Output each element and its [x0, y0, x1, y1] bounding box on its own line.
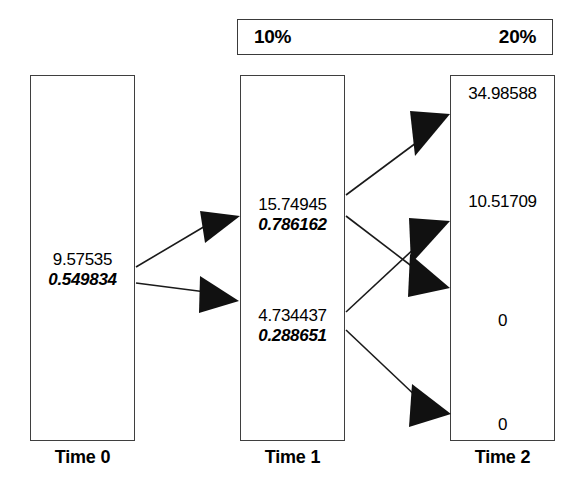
arrow-t1-0-to-t2-0 — [346, 111, 450, 195]
node-time2-3: 0 — [450, 415, 555, 435]
arrow-t1-1-to-t2-1 — [346, 218, 450, 312]
node-probability: 0.786162 — [240, 215, 345, 235]
period-caption-time-2: Time 2 — [430, 447, 575, 468]
period-caption-time-1: Time 1 — [220, 447, 365, 468]
arrow-t0-0-to-t1-1 — [136, 276, 239, 313]
legend-box: 10% 20% — [237, 19, 553, 55]
decision-tree-diagram: 10% 20% 9.57535 0.549834 Time 0 15.74945… — [0, 0, 584, 493]
period-caption-time-0: Time 0 — [10, 447, 155, 468]
node-value: 34.98588 — [450, 84, 555, 104]
period-box-time-1 — [240, 75, 345, 441]
arrow-t1-0-to-t2-2 — [346, 216, 450, 297]
node-time1-0: 15.74945 0.786162 — [240, 195, 345, 235]
period-box-time-2 — [450, 75, 555, 441]
legend-down-move-label: 20% — [499, 26, 536, 48]
arrow-t1-1-to-t2-3 — [346, 330, 451, 427]
arrow-t0-0-to-t1-0 — [136, 211, 240, 267]
node-value: 9.57535 — [30, 250, 135, 270]
node-time2-2: 0 — [450, 311, 555, 331]
node-time2-1: 10.51709 — [450, 192, 555, 212]
node-value: 10.51709 — [450, 192, 555, 212]
period-column-time-2: 34.98588 10.51709 0 0 Time 2 — [450, 75, 555, 441]
node-probability: 0.549834 — [30, 270, 135, 290]
period-column-time-0: 9.57535 0.549834 Time 0 — [30, 75, 135, 441]
node-value: 15.74945 — [240, 195, 345, 215]
node-time1-1: 4.734437 0.288651 — [240, 306, 345, 346]
period-column-time-1: 15.74945 0.786162 4.734437 0.288651 Time… — [240, 75, 345, 441]
node-value: 4.734437 — [240, 306, 345, 326]
node-value: 0 — [450, 311, 555, 331]
node-time2-0: 34.98588 — [450, 84, 555, 104]
legend-up-move-label: 10% — [254, 26, 291, 48]
node-value: 0 — [450, 415, 555, 435]
node-time0-0: 9.57535 0.549834 — [30, 250, 135, 290]
node-probability: 0.288651 — [240, 326, 345, 346]
